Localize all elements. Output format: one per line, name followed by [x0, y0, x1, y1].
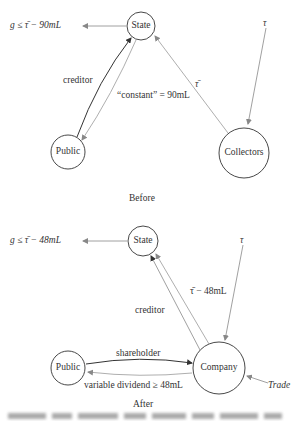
after-state-label: State — [134, 236, 153, 246]
after-creditor-label: creditor — [135, 306, 165, 316]
after-tau-arrow — [225, 245, 243, 340]
before-taubar-arrow — [155, 36, 228, 133]
before-state-label: State — [132, 21, 151, 31]
after-dividend-arrow — [88, 372, 192, 375]
after-company-label: Company — [201, 363, 238, 373]
before-public-label: Public — [56, 147, 80, 157]
figure-caption-cutoff — [8, 413, 303, 421]
before-creditor-arrow — [77, 38, 131, 137]
before-panel-title: Before — [129, 194, 155, 204]
after-shareholder-label: shareholder — [116, 349, 160, 359]
after-trade-arrow — [247, 376, 268, 383]
after-dividend-label: variable dividend ≥ 48mL — [84, 381, 183, 391]
before-collectors-label: Collectors — [224, 148, 263, 158]
before-constraint-label: g ≤ τ̄ − 90mL — [10, 21, 61, 31]
before-tau-arrow — [248, 28, 266, 124]
after-taubar-arrow — [156, 254, 209, 344]
after-taubar-label: τ̄ − 48mL — [190, 287, 227, 297]
after-panel-title: After — [133, 400, 153, 410]
after-shareholder-arrow — [86, 359, 192, 364]
after-tau-label: τ — [240, 236, 243, 246]
before-creditor-label: creditor — [63, 76, 93, 86]
after-constraint-label: g ≤ τ̄ − 48mL — [10, 236, 61, 246]
before-taubar-label: τ̄ — [195, 80, 198, 90]
before-constant-label: “constant” = 90mL — [117, 91, 190, 101]
after-trade-label: Trade — [268, 381, 290, 391]
after-creditor-arrow — [151, 256, 200, 350]
after-public-label: Public — [56, 363, 80, 373]
before-tau-label: τ — [263, 19, 266, 29]
